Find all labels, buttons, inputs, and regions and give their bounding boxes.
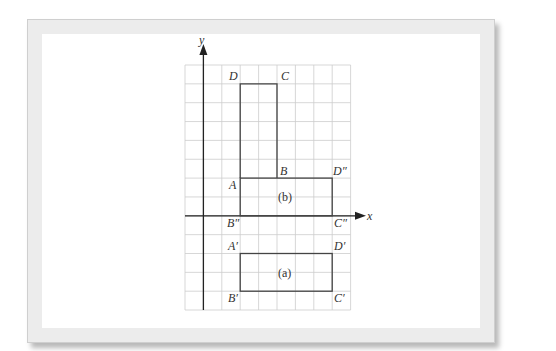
caption-b: (b) <box>278 190 292 204</box>
label-B: B <box>280 164 288 178</box>
label-C-double-prime: C″ <box>334 216 348 230</box>
coordinate-diagram: y x D C B D″ A (b) B″ C″ A′ D′ (a) B′ C′ <box>0 0 556 351</box>
label-D-prime: D′ <box>333 239 346 253</box>
label-B-prime: B′ <box>228 291 238 305</box>
label-D-double-prime: D″ <box>332 164 348 178</box>
label-C: C <box>281 69 290 83</box>
label-A: A <box>228 178 237 192</box>
label-B-double-prime: B″ <box>227 216 240 230</box>
x-axis-label: x <box>366 209 373 223</box>
x-axis-arrow-icon <box>355 212 366 220</box>
label-C-prime: C′ <box>334 291 345 305</box>
label-A-prime: A′ <box>227 239 238 253</box>
caption-a: (a) <box>278 266 291 280</box>
label-D: D <box>228 69 238 83</box>
grid <box>185 65 351 310</box>
y-axis-label: y <box>198 33 205 47</box>
